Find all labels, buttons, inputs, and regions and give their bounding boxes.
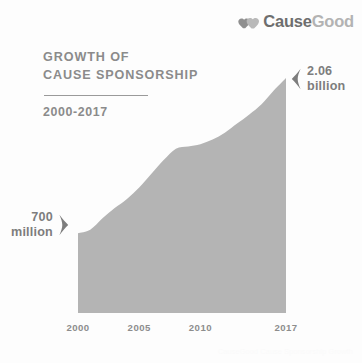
x-axis-tick-2005: 2005 xyxy=(128,322,151,333)
callout-end-label: 2.06 billion xyxy=(307,64,345,95)
chevron-left-icon xyxy=(291,68,302,90)
infographic-root: CauseGood GROWTH OF CAUSE SPONSORSHIP 20… xyxy=(0,0,362,363)
chevron-right-icon xyxy=(58,214,69,236)
x-axis-tick-2000: 2000 xyxy=(66,322,89,333)
x-axis-labels: 2000200520102017 xyxy=(0,322,362,338)
x-axis-tick-2017: 2017 xyxy=(274,322,297,333)
area-chart-fill xyxy=(78,78,286,313)
x-axis-tick-2010: 2010 xyxy=(189,322,212,333)
callout-end-value: 2.06 billion xyxy=(291,64,345,95)
callout-start-label: 700 million xyxy=(11,210,53,241)
callout-start-value: 700 million xyxy=(11,210,69,241)
area-chart xyxy=(0,0,362,363)
area-chart-svg xyxy=(0,0,362,363)
watermark-text: CauseGood Cause Sponsorship Growth xyxy=(218,347,353,356)
